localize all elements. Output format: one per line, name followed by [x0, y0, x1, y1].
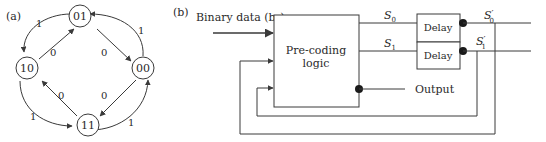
state-node-01: 01: [69, 5, 91, 27]
transition-11-to-00: [91, 80, 148, 130]
block-diagram: (b) Binary data (bn) Pre-coding logic S0…: [173, 6, 531, 134]
label-11-10: 0: [58, 90, 64, 101]
state-node-00: 00: [132, 57, 154, 79]
s1-label: S1: [384, 37, 396, 52]
output-label: Output: [415, 83, 455, 96]
label-00-11: 0: [101, 90, 107, 101]
label-01-10: 1: [36, 18, 42, 29]
label-10-11: 1: [30, 111, 36, 122]
precoding-label-line1: Pre-coding: [286, 44, 346, 57]
precoding-label-line2: logic: [303, 57, 330, 70]
delay-bottom-label: Delay: [424, 50, 453, 61]
transition-10-to-01: [39, 29, 74, 59]
delay-top-label: Delay: [424, 22, 453, 33]
input-label: Binary data (bn): [196, 11, 284, 26]
label-11-00: 1: [128, 117, 134, 128]
label-00-01: 1: [138, 25, 144, 36]
panel-a-label: (a): [6, 10, 21, 23]
transition-00-to-01: [90, 14, 143, 56]
panel-b-label: (b): [173, 6, 189, 19]
label-01-00: 0: [101, 47, 107, 58]
state-node-11: 11: [77, 114, 99, 136]
state-diagram: (a) 1 0 0 1 0 1 0 1 01 00 11: [6, 5, 154, 136]
figure-canvas: (a) 1 0 0 1 0 1 0 1 01 00 11: [0, 0, 546, 142]
s0-label: S0: [384, 9, 396, 24]
svg-text:11: 11: [81, 119, 95, 132]
svg-text:00: 00: [136, 62, 150, 75]
label-10-01: 0: [50, 47, 56, 58]
state-node-10: 10: [16, 57, 38, 79]
svg-text:01: 01: [73, 10, 87, 23]
s1-prime-label: S′1: [476, 35, 486, 51]
svg-text:10: 10: [20, 62, 34, 75]
transition-01-to-10: [24, 14, 71, 52]
